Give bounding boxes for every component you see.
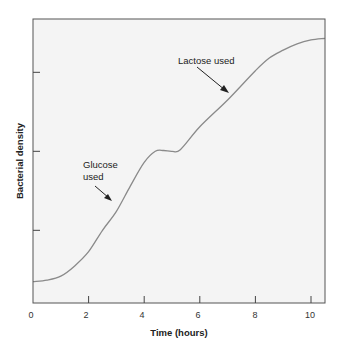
lactose-label: Lactose used	[178, 55, 235, 66]
x-tick-label-6: 6	[195, 310, 200, 320]
x-tick-label-2: 2	[83, 310, 88, 320]
y-axis-title: Bacterial density	[14, 122, 25, 199]
x-tick-label-10: 10	[305, 310, 315, 320]
glucose-label-line2: used	[83, 171, 104, 182]
x-axis-title: Time (hours)	[150, 327, 207, 338]
glucose-label-line1: Glucose	[83, 159, 118, 170]
bacterial-growth-chart: 0 2 4 6 8 10 Time (hours) Bacterial dens…	[0, 0, 341, 352]
x-tick-label-4: 4	[139, 310, 144, 320]
x-tick-label-8: 8	[252, 310, 257, 320]
x-tick-label-0: 0	[28, 310, 33, 320]
